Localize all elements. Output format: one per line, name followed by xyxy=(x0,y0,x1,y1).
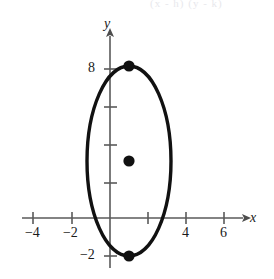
x-tick-label--4: −4 xyxy=(25,225,40,241)
y-axis-label: y xyxy=(104,16,110,32)
ellipse-graph-figure: (x - h) (y - k) xyxy=(0,0,274,279)
point-upper-vertex xyxy=(123,60,134,71)
x-axis-label: x xyxy=(250,210,256,226)
x-tick-label--2: −2 xyxy=(63,225,78,241)
point-center xyxy=(123,155,134,166)
x-tick-label-4: 4 xyxy=(182,225,189,241)
y-tick-label--2: −2 xyxy=(80,247,95,263)
x-tick-label-6: 6 xyxy=(220,225,227,241)
point-lower-vertex xyxy=(123,250,134,261)
y-tick-label-8: 8 xyxy=(88,60,95,76)
plot-canvas xyxy=(0,0,274,279)
